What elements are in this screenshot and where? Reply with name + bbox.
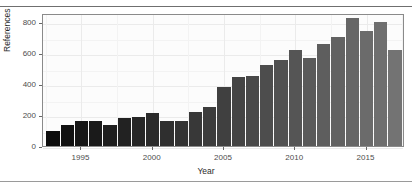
bar-2017 — [388, 50, 401, 146]
top-divider — [0, 6, 412, 7]
bar-1997 — [103, 125, 116, 146]
x-tick-label-2005: 2005 — [203, 154, 243, 162]
chart-figure: References 0200400600800 199520002005201… — [0, 0, 412, 189]
x-tick-mark-2015 — [366, 147, 367, 150]
bar-1993 — [46, 131, 59, 146]
x-tick-label-2010: 2010 — [274, 154, 314, 162]
y-tick-label-200: 200 — [4, 112, 36, 120]
x-tick-label-2015: 2015 — [346, 154, 386, 162]
y-tick-label-0: 0 — [4, 143, 36, 151]
bar-2016 — [374, 22, 387, 146]
bar-2012 — [317, 44, 330, 146]
y-tick-label-800: 800 — [4, 19, 36, 27]
bar-2004 — [203, 107, 216, 146]
bar-2015 — [360, 31, 373, 146]
bar-2011 — [303, 58, 316, 146]
x-tick-mark-2005 — [223, 147, 224, 150]
bar-2009 — [274, 60, 287, 146]
bar-1995 — [75, 121, 88, 146]
y-tick-label-400: 400 — [4, 81, 36, 89]
bar-2001 — [160, 121, 173, 146]
bar-1996 — [89, 121, 102, 146]
bar-2000 — [146, 113, 159, 146]
bar-1994 — [61, 125, 74, 146]
bar-2010 — [289, 50, 302, 146]
plot-panel — [42, 14, 404, 147]
bar-2005 — [217, 87, 230, 146]
bar-1999 — [132, 117, 145, 146]
bar-2014 — [346, 18, 359, 146]
bar-2013 — [331, 37, 344, 146]
y-tick-label-600: 600 — [4, 50, 36, 58]
bottom-divider — [0, 181, 412, 182]
x-tick-mark-2010 — [294, 147, 295, 150]
x-tick-label-2000: 2000 — [132, 154, 172, 162]
bar-2002 — [175, 121, 188, 146]
bar-2007 — [246, 76, 259, 146]
x-tick-mark-2000 — [152, 147, 153, 150]
x-tick-label-1995: 1995 — [60, 154, 100, 162]
bar-1998 — [118, 118, 131, 146]
y-axis-title: References — [2, 9, 12, 52]
bar-series — [43, 15, 403, 146]
bar-2006 — [232, 77, 245, 146]
y-tick-mark-0 — [39, 147, 42, 148]
x-tick-mark-1995 — [80, 147, 81, 150]
bar-2003 — [189, 112, 202, 146]
x-axis-title: Year — [0, 166, 412, 176]
bar-2008 — [260, 65, 273, 146]
